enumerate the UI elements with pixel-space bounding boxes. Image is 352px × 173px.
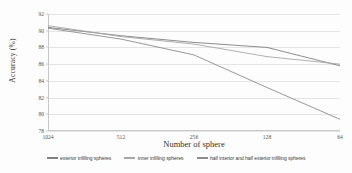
accuracy-line-chart: Accuracy (%) 7880828486889092 1024512256… bbox=[0, 0, 352, 173]
legend-line-icon bbox=[197, 157, 208, 158]
y-tick-label: 80 bbox=[38, 111, 44, 117]
legend-label: inner infilling spheres bbox=[138, 155, 184, 161]
legend-label: exterior infilling spheres bbox=[60, 155, 111, 161]
y-tick-label: 92 bbox=[38, 11, 44, 17]
y-tick-label: 84 bbox=[38, 78, 44, 84]
legend-item[interactable]: exterior infilling spheres bbox=[47, 155, 112, 161]
legend-item[interactable]: half interior and half exterior infillin… bbox=[197, 155, 306, 161]
legend-item[interactable]: inner infilling spheres bbox=[124, 155, 183, 161]
legend-line-icon bbox=[47, 157, 58, 158]
gridline bbox=[48, 131, 340, 132]
y-tick-label: 86 bbox=[38, 61, 44, 67]
plot-area: 7880828486889092 102451225612864 bbox=[48, 14, 340, 131]
chart-legend: exterior infilling spheresinner infillin… bbox=[0, 155, 352, 161]
plot-frame: 7880828486889092 102451225612864 bbox=[48, 14, 340, 131]
legend-label: half interior and half exterior infillin… bbox=[210, 155, 305, 161]
legend-line-icon bbox=[124, 157, 135, 158]
series-lines bbox=[48, 14, 340, 131]
y-tick-label: 82 bbox=[38, 95, 44, 101]
y-tick-label: 88 bbox=[38, 44, 44, 50]
series-line bbox=[48, 28, 340, 119]
x-axis-title: Number of sphere bbox=[48, 139, 340, 149]
y-tick-label: 90 bbox=[38, 28, 44, 34]
series-line bbox=[48, 26, 340, 64]
y-axis-title: Accuracy (%) bbox=[8, 25, 17, 97]
